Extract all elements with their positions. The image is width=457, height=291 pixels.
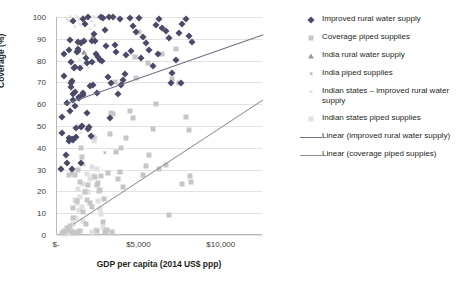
data-point [69, 165, 76, 172]
gridline [57, 148, 262, 149]
data-point [126, 15, 133, 22]
gridline [57, 235, 262, 236]
data-point [115, 177, 120, 182]
data-point [127, 108, 132, 113]
y-tick-label: 60 [37, 100, 46, 109]
data-point [83, 190, 88, 195]
legend-label: Linear (coverage piped suppies) [322, 149, 436, 159]
data-point [114, 150, 119, 155]
data-point [86, 182, 91, 187]
legend-marker-x-icon [300, 68, 322, 79]
data-point [150, 127, 155, 132]
data-point [62, 152, 69, 159]
data-point [167, 80, 174, 87]
data-point [92, 23, 98, 29]
data-point [58, 165, 65, 172]
gridline [57, 39, 262, 40]
data-point [189, 179, 194, 184]
y-tick-label: 10 [37, 209, 46, 218]
legend-item[interactable]: Indian states – improved rural water sup… [300, 86, 452, 106]
data-point [63, 160, 70, 167]
scatter-chart: 0102030405060708090100 Coverage (%) $-$5… [0, 0, 457, 291]
x-tick-label: $- [52, 240, 59, 249]
legend-item[interactable]: India piped supplies [300, 68, 452, 79]
data-point [102, 150, 108, 156]
data-point [117, 169, 122, 174]
legend-item[interactable]: Indian states piped supplies [300, 113, 452, 124]
y-tick-label: 20 [37, 187, 46, 196]
data-point [99, 57, 106, 64]
y-tick-label: 70 [37, 78, 46, 87]
y-tick-label: 0 [42, 231, 46, 240]
data-point [96, 199, 101, 204]
legend-marker-square-light-icon [300, 113, 322, 124]
legend-item[interactable]: Coverage piped supplies [300, 32, 452, 43]
data-point [89, 204, 94, 209]
legend-marker-x-light-icon [300, 86, 322, 97]
data-point [84, 109, 91, 116]
legend-label: Linear (improved rural water supply) [322, 131, 450, 141]
plot-area [56, 17, 262, 235]
data-point [183, 115, 188, 120]
data-point [97, 189, 102, 194]
data-point [58, 129, 65, 136]
legend-marker-triangle-icon [300, 50, 322, 61]
y-tick-label: 80 [37, 56, 46, 65]
data-point [113, 48, 120, 55]
y-tick-label: 30 [37, 165, 46, 174]
data-point [169, 69, 176, 76]
data-point [136, 15, 143, 22]
data-point [114, 91, 121, 98]
data-point [78, 179, 83, 184]
data-point [60, 72, 67, 79]
data-point [101, 219, 106, 224]
y-axis-tick-labels: 0102030405060708090100 [0, 0, 52, 291]
data-point [107, 131, 112, 136]
data-point [124, 135, 129, 140]
legend: Improved rural water supplyCoverage pipe… [300, 14, 452, 167]
data-point [83, 222, 88, 227]
data-point [186, 128, 191, 133]
y-tick-label: 50 [37, 122, 46, 131]
x-tick-label: $10,000 [206, 240, 235, 249]
data-point [95, 228, 100, 233]
data-point [116, 16, 123, 23]
data-point [92, 175, 97, 180]
data-point [59, 114, 66, 121]
data-point [77, 228, 82, 233]
y-tick-label: 100 [33, 13, 46, 22]
data-point [147, 153, 152, 158]
data-point [106, 170, 111, 175]
data-point [175, 30, 182, 37]
y-axis-title: Coverage (%) [0, 34, 6, 88]
legend-label: India rural water supply [322, 50, 405, 60]
data-point [71, 205, 76, 210]
data-point [166, 34, 173, 41]
data-point [119, 145, 124, 150]
trendline [64, 34, 264, 105]
data-point [110, 229, 115, 234]
legend-item[interactable]: India rural water supply [300, 50, 452, 61]
data-point [167, 213, 172, 218]
data-point [143, 164, 148, 169]
legend-marker-line-icon [300, 131, 322, 142]
legend-item[interactable]: Linear (improved rural water supply) [300, 131, 452, 142]
gridline [57, 104, 262, 105]
data-point [74, 199, 79, 204]
data-point [73, 173, 78, 178]
data-point [99, 174, 104, 179]
legend-marker-diamond-icon [300, 14, 322, 25]
data-point [66, 107, 73, 114]
data-point [96, 180, 101, 185]
legend-marker-line-light-icon [300, 149, 322, 160]
data-point [84, 171, 89, 176]
legend-label: Improved rural water supply [322, 14, 421, 24]
legend-item[interactable]: Improved rural water supply [300, 14, 452, 25]
data-point [79, 154, 84, 159]
legend-marker-square-icon [300, 32, 322, 43]
legend-label: India piped supplies [322, 68, 393, 78]
data-point [70, 215, 75, 220]
x-axis-title: GDP per capita (2014 US$ ppp) [56, 259, 262, 269]
legend-item[interactable]: Linear (coverage piped suppies) [300, 149, 452, 160]
data-point [172, 56, 179, 63]
